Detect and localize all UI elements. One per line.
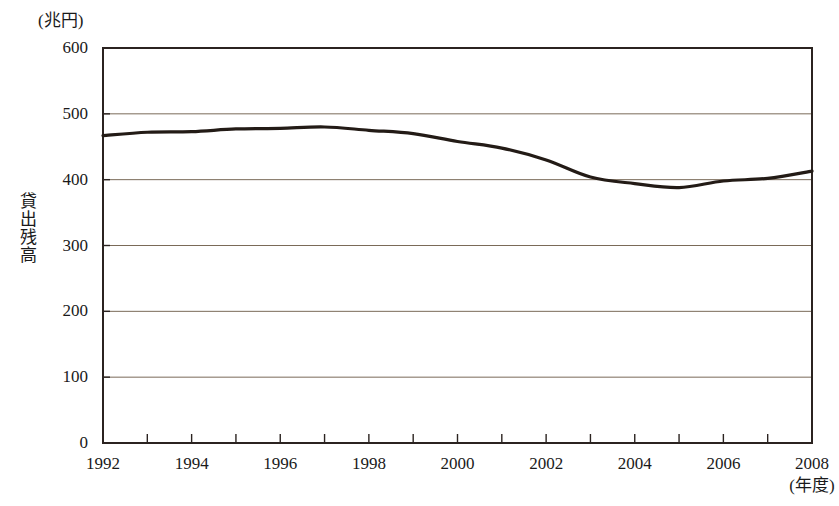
x-tick-marks — [103, 434, 812, 443]
gridlines — [103, 114, 812, 377]
data-series-line — [103, 127, 812, 188]
y-tick-marks — [103, 48, 110, 443]
